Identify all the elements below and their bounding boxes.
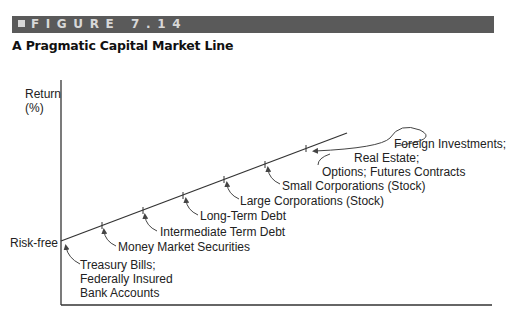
arrow-treasury	[66, 247, 80, 264]
y-axis-label-return: Return	[25, 87, 61, 101]
label-large-corporations: Large Corporations (Stock)	[240, 194, 384, 208]
arrow-long-term	[186, 200, 198, 215]
bracket-options	[318, 154, 330, 165]
label-small-corporations: Small Corporations (Stock)	[282, 179, 425, 193]
label-bank-accounts: Bank Accounts	[80, 286, 159, 300]
label-foreign-investments: Foreign Investments;	[394, 137, 506, 151]
capital-market-line-chart	[0, 0, 506, 314]
arrow-small-corp	[268, 169, 280, 184]
arrow-large-corp	[227, 184, 239, 199]
y-axis-label-percent: (%)	[25, 101, 44, 115]
label-intermediate-debt: Intermediate Term Debt	[160, 225, 285, 239]
label-treasury-bills: Treasury Bills;	[80, 258, 156, 272]
label-money-market: Money Market Securities	[118, 240, 250, 254]
label-long-term-debt: Long-Term Debt	[200, 209, 286, 223]
label-federally-insured: Federally Insured	[80, 272, 173, 286]
risk-free-label: Risk-free	[10, 236, 58, 250]
label-real-estate: Real Estate;	[354, 151, 419, 165]
label-options-futures: Options; Futures Contracts	[322, 165, 465, 179]
arrow-money-market	[104, 231, 116, 246]
arrow-intermediate	[145, 216, 157, 231]
